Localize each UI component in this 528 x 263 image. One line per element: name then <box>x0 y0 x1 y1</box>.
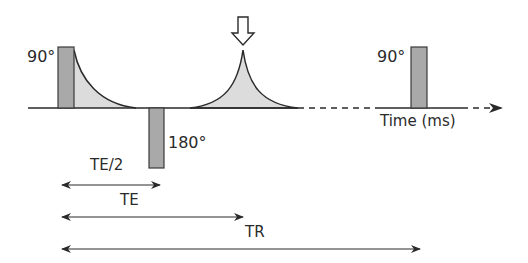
te-half-label: TE/2 <box>90 158 123 173</box>
te-label: TE <box>120 193 139 208</box>
pulse-180-label: 180° <box>168 135 207 151</box>
pulse-180 <box>149 108 164 168</box>
tr-label: TR <box>245 225 265 240</box>
echo-signal <box>190 50 298 108</box>
pulse-90-first-label: 90° <box>27 49 55 65</box>
pulse-90-second <box>411 47 427 108</box>
fid-signal <box>74 50 136 108</box>
time-axis-label: Time (ms) <box>380 114 456 129</box>
echo-marker-arrow-icon <box>232 17 254 45</box>
pulse-90-second-label: 90° <box>377 49 405 65</box>
pulse-90-first <box>58 47 74 108</box>
